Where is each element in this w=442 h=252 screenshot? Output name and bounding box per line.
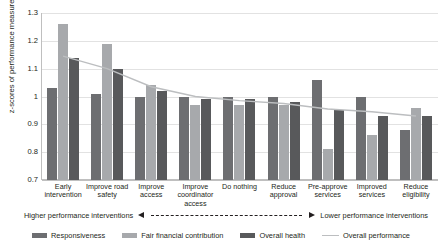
x-axis-tick-label: Improve access: [129, 183, 173, 200]
legend-item[interactable]: Overall health: [240, 231, 305, 240]
arrow-left-icon: [138, 212, 144, 218]
dashed-divider: [151, 215, 302, 216]
bar: [290, 102, 300, 180]
bar: [245, 99, 255, 180]
bar: [69, 58, 79, 180]
legend-item[interactable]: Responsiveness: [32, 231, 105, 240]
bar: [201, 99, 211, 180]
bar: [91, 94, 101, 180]
annotation-arrow-track: [138, 211, 315, 219]
x-axis-tick-label: Improve coordinator access: [173, 183, 217, 208]
bar-group: [262, 13, 306, 180]
bar-group: [217, 13, 261, 180]
bar: [279, 105, 289, 180]
bar: [411, 108, 421, 180]
bar: [157, 91, 167, 180]
bar: [102, 44, 112, 180]
y-axis-tick-label: 1.2: [4, 37, 38, 45]
bar: [146, 85, 156, 180]
bar: [334, 110, 344, 180]
legend-swatch-icon: [32, 233, 47, 238]
annotation-right-label: Lower performance interventions: [320, 211, 428, 220]
legend-item[interactable]: Overall performance: [322, 231, 410, 240]
y-axis-tick-label: 1.1: [4, 65, 38, 73]
legend-label: Fair financial contribution: [141, 231, 223, 240]
bar-group: [350, 13, 394, 180]
bar-groups: [41, 13, 438, 180]
bar: [367, 135, 377, 180]
bar: [47, 88, 57, 180]
chart-legend: ResponsivenessFair financial contributio…: [0, 228, 442, 242]
legend-swatch-icon: [322, 235, 339, 236]
arrow-right-icon: [309, 212, 315, 218]
legend-swatch-icon: [122, 233, 137, 238]
chart-container: z-scores of performance measures 1.31.21…: [0, 0, 442, 252]
x-axis-tick-label: Reduce approval: [262, 183, 306, 200]
bar: [58, 24, 68, 180]
bar-group: [394, 13, 438, 180]
y-axis-tick-label: 1.3: [4, 9, 38, 17]
bar: [378, 116, 388, 180]
bar: [223, 97, 233, 181]
gridline: [42, 180, 438, 181]
annotation-left-label: Higher performance interventions: [24, 211, 133, 220]
y-axis-ticks: 1.31.21.110.90.80.7: [0, 13, 38, 180]
bar: [135, 97, 145, 181]
y-axis-tick-label: 0.8: [4, 148, 38, 156]
bar-group: [306, 13, 350, 180]
bar-group: [173, 13, 217, 180]
bar: [113, 69, 123, 180]
x-axis-tick-label: Reduce eligibility: [394, 183, 438, 200]
bar-group: [41, 13, 85, 180]
legend-label: Responsiveness: [51, 231, 105, 240]
legend-item[interactable]: Fair financial contribution: [122, 231, 223, 240]
bar: [190, 105, 200, 180]
bar: [356, 97, 366, 181]
legend-swatch-icon: [240, 233, 255, 238]
x-axis-tick-label: Early intervention: [41, 183, 85, 200]
x-axis-tick-label: Do nothing: [217, 183, 261, 191]
bar: [268, 97, 278, 181]
y-axis-tick-label: 1: [4, 93, 38, 101]
x-axis-tick-label: Pre-approve services: [306, 183, 350, 200]
bar: [179, 97, 189, 181]
bar: [234, 105, 244, 180]
bar: [312, 80, 322, 180]
x-axis-labels: Early interventionImprove road safetyImp…: [41, 183, 438, 209]
bar-group: [129, 13, 173, 180]
bar: [323, 149, 333, 180]
legend-label: Overall performance: [343, 231, 410, 240]
performance-direction-annotation: Higher performance interventions Lower p…: [24, 208, 428, 222]
legend-label: Overall health: [259, 231, 305, 240]
y-axis-tick-label: 0.9: [4, 121, 38, 129]
y-axis-tick-label: 0.7: [4, 176, 38, 184]
bar: [400, 130, 410, 180]
bar: [422, 116, 432, 180]
x-axis-tick-label: Improve road safety: [85, 183, 129, 200]
x-axis-tick-label: Improved services: [350, 183, 394, 200]
bar-group: [85, 13, 129, 180]
